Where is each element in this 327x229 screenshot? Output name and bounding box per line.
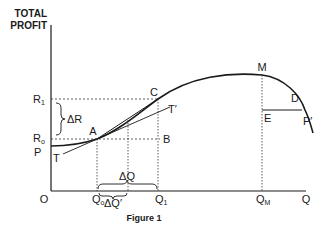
x-axis-end-label: Q bbox=[302, 193, 311, 205]
point-a-label: A bbox=[89, 125, 97, 137]
r1-label: R1 bbox=[33, 93, 45, 106]
point-t-prime-label: T′ bbox=[168, 103, 177, 115]
delta-q-label: ΔQ bbox=[119, 170, 135, 182]
qm-label: QM bbox=[256, 193, 271, 206]
q0-label: Qo bbox=[92, 193, 105, 206]
origin-label: O bbox=[40, 193, 49, 205]
point-e-label: E bbox=[264, 112, 271, 124]
delta-q-prime-label: ΔQ′ bbox=[104, 197, 122, 209]
chord-ac bbox=[97, 99, 158, 139]
point-d-label: D bbox=[291, 92, 299, 104]
point-b-label: B bbox=[163, 133, 170, 145]
point-p-prime-label: P′ bbox=[303, 115, 312, 127]
y-axis-title-line2: PROFIT bbox=[10, 20, 47, 31]
q1-label: Q1 bbox=[155, 193, 168, 206]
point-m-label: M bbox=[257, 61, 266, 73]
p-label: P bbox=[34, 146, 41, 158]
figure-caption: Figure 1 bbox=[126, 213, 161, 223]
y-axis-title-line1: TOTAL bbox=[15, 8, 47, 19]
delta-r-brace bbox=[56, 103, 65, 135]
total-profit-diagram: TOTAL PROFIT O Q R1 ΔR Ro P A B C T T′ M… bbox=[0, 0, 327, 229]
r0-label: Ro bbox=[33, 132, 45, 145]
delta-r-label: ΔR bbox=[67, 113, 82, 125]
point-c-label: C bbox=[150, 86, 158, 98]
point-t-label: T bbox=[53, 152, 60, 164]
